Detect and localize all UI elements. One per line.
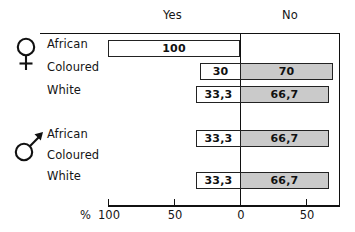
bar-segment-no: 70 (240, 63, 333, 80)
axis-tick-100-left (108, 199, 109, 206)
bar-segment-yes: 33,3 (196, 172, 241, 189)
category-label-female-coloured: Coloured (47, 60, 99, 74)
female-symbol-icon (13, 36, 43, 76)
chart-container: Yes No African Coloured White African Co… (0, 0, 355, 232)
bar-segment-yes: 33,3 (196, 130, 241, 147)
axis-unit-label: % (80, 208, 91, 222)
column-header-yes: Yes (163, 8, 182, 22)
axis-tick-0 (240, 199, 241, 206)
category-label-male-white: White (47, 169, 81, 183)
category-label-female-african: African (47, 37, 88, 51)
category-label-female-white: White (47, 83, 81, 97)
bar-segment-no: 66,7 (240, 130, 329, 147)
bar-segment-yes: 30 (200, 63, 241, 80)
category-label-male-african: African (47, 127, 88, 141)
male-symbol-icon (13, 126, 47, 166)
bar-segment-no: 66,7 (240, 86, 329, 103)
category-label-male-coloured: Coloured (47, 148, 99, 162)
column-header-no: No (282, 8, 298, 22)
axis-tick-label-50-left: 50 (168, 208, 183, 222)
axis-tick-50-right (306, 199, 307, 206)
axis-tick-label-0: 0 (237, 208, 244, 222)
axis-tick-label-50-right: 50 (300, 208, 315, 222)
axis-tick-50-left (174, 199, 175, 206)
bar-segment-yes: 100 (108, 40, 240, 57)
bar-segment-yes: 33,3 (196, 86, 241, 103)
axis-tick-label-100-left: 100 (98, 208, 120, 222)
bar-segment-no: 66,7 (240, 172, 329, 189)
